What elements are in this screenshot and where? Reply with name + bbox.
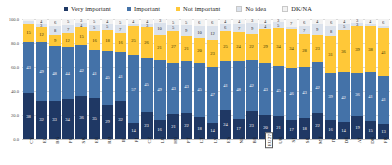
bar-value-label: 18 (197, 126, 202, 131)
bar-value-label: 38 (26, 114, 31, 119)
bar-column[interactable]: 34154236 (75, 19, 86, 139)
bar-value-label: 4 (369, 19, 371, 24)
bar-segment: 7 (233, 24, 244, 32)
legend-item[interactable]: No idea (236, 5, 266, 12)
bar-column[interactable]: 55274321 (167, 19, 178, 139)
x-axis-column: HU (167, 139, 178, 165)
bar-column[interactable]: 59214322 (181, 19, 192, 139)
bar-value-label: 20 (263, 125, 268, 130)
legend-label: No idea (245, 5, 266, 12)
y-axis-labels: 100.080.060.040.020.00.0 (0, 19, 21, 139)
bar-column[interactable]: 43124932 (36, 19, 47, 139)
x-axis-tick-label: PT (186, 137, 191, 143)
plot-area: 1543384312493268948335712443434154236551… (22, 19, 390, 139)
bar-column[interactable]: 612234714 (207, 19, 218, 139)
bar-column[interactable]: 49234222 (312, 19, 323, 139)
x-axis-column: NL (233, 139, 244, 165)
x-axis-column: PL (62, 139, 73, 165)
x-axis-column: MT (312, 139, 323, 165)
bar-segment: 6 (378, 19, 389, 26)
legend-item[interactable]: Important (127, 5, 160, 12)
bar-segment: 6 (325, 19, 336, 26)
bar-column[interactable]: 57164132 (115, 19, 126, 139)
bar-column[interactable]: 44294320 (259, 19, 270, 139)
bar-value-label: 49 (158, 88, 163, 93)
x-axis-tick-label: ES (226, 137, 231, 143)
bar-segment: 57 (128, 55, 139, 122)
x-axis-column: EL (36, 139, 47, 165)
bar-column[interactable]: 45184529 (102, 19, 113, 139)
y-axis-tick-label: 40.0 (11, 89, 19, 94)
bar-segment: 23 (141, 112, 152, 139)
x-axis-column: RO (102, 139, 113, 165)
legend-item[interactable]: DK/NA (282, 5, 312, 12)
x-axis-column: LT (194, 139, 205, 165)
bar-value-label: 6 (382, 20, 384, 25)
bar-column[interactable]: 4255714 (128, 19, 139, 139)
bar-segment: 41 (378, 28, 389, 76)
y-axis-tick-label: 100.0 (9, 17, 19, 22)
bar-column[interactable]: 35344521 (273, 19, 284, 139)
legend-swatch-icon (236, 6, 242, 12)
bar-column[interactable]: 6414113 (378, 19, 389, 139)
y-axis-tick-label: 80.0 (11, 41, 19, 46)
x-axis-tick-label: FI (134, 138, 139, 143)
bar-column[interactable]: 57124434 (62, 19, 73, 139)
bar-segment: 24 (220, 110, 231, 139)
bar-value-label: 42 (315, 85, 320, 90)
bar-value-label: 7 (290, 21, 292, 26)
bar-column[interactable]: 68313916 (325, 19, 336, 139)
bar-segment: 39 (325, 73, 336, 120)
bar-value-label: 41 (223, 83, 228, 88)
bar-column[interactable]: 7344617 (286, 19, 297, 139)
bar-column[interactable]: 47244817 (233, 19, 244, 139)
legend-item[interactable]: Very important (64, 5, 111, 12)
bar-column[interactable]: 45364214 (338, 19, 349, 139)
bar-segment: 23 (312, 35, 323, 63)
bar-column[interactable]: 6894833 (49, 19, 60, 139)
x-axis-tick-label: AT (357, 137, 362, 144)
x-axis-tick-label: DK (370, 136, 375, 144)
bar-value-label: 43 (184, 85, 189, 90)
bar-segment: 43 (167, 63, 178, 114)
x-axis-tick-label: LU (160, 136, 165, 143)
x-axis-tick-label: SE (305, 137, 310, 143)
bar-column[interactable]: 610204518 (194, 19, 205, 139)
bar-segment: 44 (62, 47, 73, 99)
bar-segment: 12 (36, 27, 47, 41)
bar-value-label: 33 (53, 118, 58, 123)
bar-value-label: 17 (237, 126, 242, 131)
bar-value-label: 45 (276, 88, 281, 93)
bar-column[interactable]: 39224223 (246, 19, 257, 139)
bar-value-label: 3 (41, 24, 43, 28)
x-axis-column: LU (154, 139, 165, 165)
bar-segment: 45 (273, 66, 284, 116)
bar-value-label: 12 (210, 31, 215, 36)
bar-value-label: 7 (238, 26, 240, 31)
bar-segment: 38 (23, 93, 34, 139)
bar-value-label: 6 (330, 20, 332, 25)
bar-value-label: 12 (39, 32, 44, 37)
bar-column[interactable]: 33393619 (351, 19, 362, 139)
bar-value-label: 21 (184, 46, 189, 51)
x-axis-labels: CYELBGPLSKEEROIEFICZLUHUPTLTLVESNLBEEU27… (22, 139, 390, 165)
bar-column[interactable]: 4384115 (365, 19, 376, 139)
bar-value-label: 4 (80, 23, 82, 28)
bar-column[interactable]: 55164135 (89, 19, 100, 139)
bar-column[interactable]: 43264523 (141, 19, 152, 139)
bar-column[interactable]: 67284318 (299, 19, 310, 139)
bar-column[interactable]: 154338 (23, 19, 34, 139)
bar-segment: 48 (49, 46, 60, 101)
bar-value-label: 6 (198, 20, 200, 25)
bar-value-label: 24 (223, 122, 228, 127)
bar-segment: 32 (115, 101, 126, 139)
bar-value-label: 36 (342, 49, 347, 54)
legend-item[interactable]: Not important (176, 5, 220, 12)
bar-value-label: 4 (264, 24, 266, 29)
bar-column[interactable]: 46254124 (220, 19, 231, 139)
x-axis-column: DK (365, 139, 376, 165)
bar-segment: 41 (89, 50, 100, 98)
bar-value-label: 34 (289, 46, 294, 51)
bar-value-label: 23 (210, 51, 215, 56)
bar-column[interactable]: 310214916 (154, 19, 165, 139)
